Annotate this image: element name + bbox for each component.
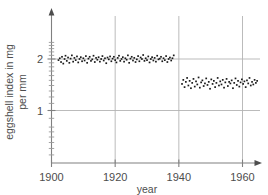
data-point xyxy=(131,56,133,58)
data-point xyxy=(221,84,223,86)
series-1 xyxy=(181,77,258,90)
data-point xyxy=(80,56,82,58)
data-point xyxy=(154,57,156,59)
data-point xyxy=(104,57,106,59)
data-point xyxy=(182,79,184,81)
data-point xyxy=(114,59,116,61)
data-point xyxy=(245,86,247,88)
data-point xyxy=(155,61,157,63)
data-point xyxy=(147,56,149,58)
data-point xyxy=(233,82,235,84)
data-point xyxy=(247,83,249,85)
data-point xyxy=(67,57,69,59)
data-point xyxy=(165,55,167,57)
data-point xyxy=(223,87,225,89)
data-point xyxy=(145,57,147,59)
data-point xyxy=(125,57,127,59)
data-point xyxy=(149,62,151,64)
data-point xyxy=(98,56,100,58)
data-point xyxy=(199,87,201,89)
data-point xyxy=(123,61,125,63)
data-point xyxy=(153,60,155,62)
data-point xyxy=(164,59,166,61)
y-axis-title-line1: eggshell index in mg xyxy=(3,44,15,140)
x-axis-title: year xyxy=(137,183,158,195)
eggshell-index-scatter-chart: 190019201940196012 yeareggshell index in… xyxy=(0,0,268,195)
data-point xyxy=(112,58,114,60)
data-point xyxy=(240,82,242,84)
data-point xyxy=(127,55,129,57)
data-point xyxy=(202,80,204,82)
data-point xyxy=(161,60,163,62)
data-point xyxy=(89,56,91,58)
data-point xyxy=(117,57,119,59)
data-point xyxy=(64,58,66,60)
data-point xyxy=(231,80,233,82)
data-point xyxy=(200,82,202,84)
data-point xyxy=(222,79,224,81)
data-point xyxy=(76,56,78,58)
y-tick-label-2: 2 xyxy=(37,53,43,65)
data-point xyxy=(86,62,88,64)
data-point xyxy=(195,81,197,83)
data-point xyxy=(122,56,124,58)
data-point xyxy=(72,61,74,63)
data-point xyxy=(103,60,105,62)
data-point xyxy=(193,78,195,80)
data-point xyxy=(159,58,161,60)
data-point xyxy=(246,80,248,82)
data-point xyxy=(244,81,246,83)
y-axis-arrow-icon xyxy=(49,8,55,16)
data-point xyxy=(163,57,165,59)
data-point xyxy=(113,56,115,58)
data-point xyxy=(126,59,128,61)
data-point xyxy=(107,57,109,59)
data-point xyxy=(242,83,244,85)
data-point xyxy=(142,54,144,56)
data-point xyxy=(99,61,101,63)
data-point xyxy=(109,56,111,58)
data-point xyxy=(252,84,254,86)
data-point xyxy=(139,60,141,62)
data-point xyxy=(132,60,134,62)
data-point xyxy=(94,61,96,63)
data-point xyxy=(255,82,257,84)
data-point xyxy=(226,78,228,80)
data-point xyxy=(60,61,62,63)
data-point xyxy=(186,77,188,79)
data-point xyxy=(241,79,243,81)
data-point xyxy=(156,55,158,57)
data-point xyxy=(169,57,171,59)
data-point xyxy=(102,55,104,57)
x-tick-label-1900: 1900 xyxy=(39,171,63,183)
x-tick-label-1940: 1940 xyxy=(167,171,191,183)
data-point xyxy=(250,85,252,87)
data-point xyxy=(96,59,98,61)
data-point xyxy=(81,60,83,62)
data-points xyxy=(58,54,258,89)
data-point xyxy=(137,55,139,57)
data-point xyxy=(256,80,258,82)
data-point xyxy=(90,60,92,62)
x-tick-label-1960: 1960 xyxy=(230,171,254,183)
data-point xyxy=(66,60,68,62)
y-tick-label-1: 1 xyxy=(37,105,43,117)
data-point xyxy=(128,62,130,64)
data-point xyxy=(181,83,183,85)
data-point xyxy=(217,77,219,79)
data-point xyxy=(230,83,232,85)
data-point xyxy=(208,81,210,83)
data-point xyxy=(203,85,205,87)
data-point xyxy=(196,84,198,86)
data-point xyxy=(184,86,186,88)
chart-canvas: 190019201940196012 yeareggshell index in… xyxy=(0,0,268,195)
data-point xyxy=(121,58,123,60)
data-point xyxy=(146,59,148,61)
data-point xyxy=(135,61,137,63)
y-axis-title-line2: per mm xyxy=(16,74,28,110)
data-point xyxy=(228,81,230,83)
x-axis xyxy=(52,160,263,168)
data-point xyxy=(235,78,237,80)
data-point xyxy=(68,62,70,64)
data-point xyxy=(140,57,142,59)
